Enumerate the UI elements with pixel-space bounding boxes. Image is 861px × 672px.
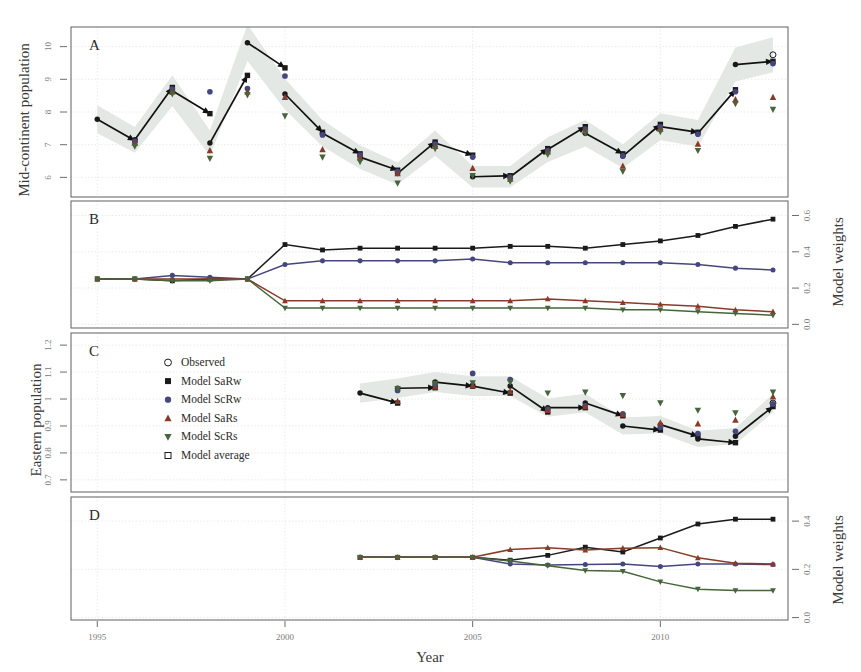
- prediction-point: [320, 132, 326, 138]
- data-point: [583, 260, 588, 265]
- data-point: [508, 260, 513, 265]
- data-point: [733, 517, 738, 522]
- prediction-point: [207, 89, 213, 95]
- y-tick-label: 1.2: [43, 340, 53, 351]
- panel-background: [71, 201, 788, 328]
- data-point: [282, 262, 287, 267]
- figure-canvas: A678910B0.00.20.40.6C0.70.80.911.11.2D0.…: [0, 0, 861, 672]
- prediction-point: [470, 371, 476, 377]
- data-point: [433, 246, 438, 251]
- figure-svg: A678910B0.00.20.40.6C0.70.80.911.11.2D0.…: [0, 0, 861, 672]
- data-point: [733, 266, 738, 271]
- observed-point: [357, 390, 362, 395]
- y-tick-label: 7: [43, 142, 53, 147]
- prediction-point: [620, 153, 626, 159]
- y-tick-label: 0.6: [802, 209, 812, 221]
- panel-label-b: B: [89, 211, 99, 227]
- data-point: [620, 562, 625, 567]
- prediction-point: [207, 111, 212, 116]
- data-point: [658, 536, 663, 541]
- prediction-point: [282, 73, 288, 79]
- y-tick-label: 1: [43, 397, 53, 402]
- data-point: [696, 522, 701, 527]
- legend-label: Model ScRw: [181, 393, 242, 405]
- panel-b: B0.00.20.40.6: [71, 201, 812, 330]
- prediction-point: [245, 73, 250, 78]
- panel-label-d: D: [89, 507, 100, 523]
- panel-c: C0.70.80.911.11.2: [43, 333, 788, 492]
- prediction-point: [282, 65, 287, 70]
- legend-label: Model SaRs: [181, 412, 238, 424]
- panel-label-a: A: [89, 37, 100, 53]
- y-tick-label: 8: [43, 109, 53, 114]
- data-point: [395, 258, 400, 263]
- y-tick-label: 6: [43, 175, 53, 180]
- data-point: [733, 224, 738, 229]
- data-point: [620, 242, 625, 247]
- filled-square-icon: [165, 378, 171, 384]
- y-axis-label-panel-c: Eastern population: [28, 363, 44, 476]
- data-point: [433, 258, 438, 263]
- data-point: [470, 246, 475, 251]
- y-tick-label: 0.4: [802, 246, 812, 258]
- data-point: [320, 248, 325, 253]
- y-tick-label: 0.8: [43, 447, 53, 459]
- legend-label: Observed: [181, 356, 225, 368]
- x-tick-label: 2000: [276, 632, 295, 642]
- panel-a: A678910: [43, 24, 788, 197]
- y-axis-ticks-d: 0.00.20.4: [792, 515, 812, 623]
- legend-label: Model ScRs: [181, 430, 238, 442]
- prediction-point: [733, 89, 739, 95]
- y-axis-label-panel-a: Mid-continent population: [16, 43, 32, 197]
- data-point: [545, 244, 550, 249]
- x-tick-label: 1995: [88, 632, 107, 642]
- y-tick-label: 9: [43, 77, 53, 82]
- data-point: [395, 246, 400, 251]
- y-tick-label: 0.9: [43, 420, 53, 432]
- data-point: [658, 260, 663, 265]
- observed-point: [733, 433, 738, 438]
- prediction-point: [733, 429, 739, 435]
- y-tick-label: 10: [43, 42, 53, 52]
- y-tick-label: 0.0: [802, 318, 812, 330]
- panel-background: [71, 333, 788, 492]
- data-point: [770, 267, 775, 272]
- prediction-point: [695, 131, 701, 137]
- panel-background: [71, 497, 788, 620]
- x-axis-label: Year: [416, 649, 444, 665]
- data-point: [358, 258, 363, 263]
- data-point: [658, 239, 663, 244]
- data-point: [695, 262, 700, 267]
- data-point: [358, 246, 363, 251]
- legend-label: Model average: [181, 449, 250, 462]
- data-point: [771, 217, 776, 222]
- data-point: [320, 258, 325, 263]
- data-point: [583, 246, 588, 251]
- panel-d: D0.00.20.41995200020052010: [71, 497, 812, 642]
- y-axis-ticks-a: 678910: [43, 42, 67, 180]
- data-point: [470, 257, 475, 262]
- observed-point: [620, 423, 625, 428]
- data-point: [620, 260, 625, 265]
- prediction-point: [770, 61, 776, 67]
- y-axis-label-panel-d: Model weights: [830, 515, 846, 605]
- y-axis-label-panel-b: Model weights: [830, 217, 846, 307]
- y-axis-ticks-b: 0.00.20.40.6: [792, 209, 812, 330]
- y-tick-label: 0.7: [43, 474, 53, 486]
- observed-point: [245, 40, 250, 45]
- legend-label: Model SaRw: [181, 375, 242, 387]
- data-point: [583, 562, 588, 567]
- y-axis-ticks-c: 0.70.80.911.11.2: [43, 340, 67, 486]
- data-point: [545, 260, 550, 265]
- x-tick-label: 2010: [651, 632, 670, 642]
- x-axis-ticks: 1995200020052010: [88, 621, 670, 642]
- observed-point: [207, 140, 212, 145]
- panel-label-c: C: [89, 343, 99, 359]
- data-point: [771, 517, 776, 522]
- prediction-point: [733, 440, 738, 445]
- data-point: [695, 562, 700, 567]
- arrow-shaft: [473, 176, 506, 177]
- data-point: [658, 564, 663, 569]
- y-tick-label: 0.4: [802, 515, 812, 527]
- observed-point: [733, 62, 738, 67]
